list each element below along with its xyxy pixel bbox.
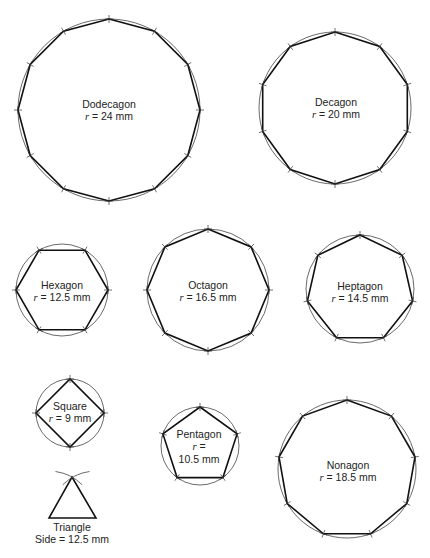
radius-symbol: r bbox=[192, 441, 196, 452]
square-name: Square bbox=[49, 400, 91, 412]
decagon-radius: r = 20 mm bbox=[312, 108, 360, 121]
hexagon-name: Hexagon bbox=[34, 279, 91, 291]
hexagon-radius-value: = 12.5 mm bbox=[41, 291, 91, 303]
triangle-side-value: Side = 12.5 mm bbox=[35, 533, 109, 545]
radius-symbol: r bbox=[320, 472, 324, 483]
radius-symbol: r bbox=[180, 292, 184, 303]
radius-symbol: r bbox=[332, 293, 336, 304]
nonagon-label: Nonagon r = 18.5 mm bbox=[320, 459, 377, 484]
square-label: Square r = 9 mm bbox=[49, 400, 91, 425]
nonagon-radius-value: = 18.5 mm bbox=[327, 471, 377, 483]
pentagon-name: Pentagon bbox=[177, 428, 222, 440]
heptagon-label: Heptagon r = 14.5 mm bbox=[332, 280, 389, 305]
nonagon-name: Nonagon bbox=[320, 459, 377, 471]
pentagon-radius-value: 10.5 mm bbox=[177, 453, 222, 465]
square-radius-value: = 9 mm bbox=[56, 412, 91, 424]
square-radius: r = 9 mm bbox=[49, 412, 91, 425]
decagon-label: Decagon r = 20 mm bbox=[312, 96, 360, 121]
decagon-name: Decagon bbox=[312, 96, 360, 108]
radius-symbol: r bbox=[85, 111, 89, 122]
radius-symbol: r bbox=[34, 292, 38, 303]
pentagon-label: Pentagon r = 10.5 mm bbox=[177, 428, 222, 465]
radius-symbol: r bbox=[312, 109, 316, 120]
hexagon-radius: r = 12.5 mm bbox=[34, 291, 91, 304]
equals-sign: = bbox=[199, 440, 205, 452]
radius-symbol: r bbox=[49, 413, 53, 424]
pentagon-radius: r = bbox=[177, 440, 222, 453]
nonagon-radius: r = 18.5 mm bbox=[320, 471, 377, 484]
dodecagon-name: Dodecagon bbox=[82, 98, 136, 110]
dodecagon-label: Dodecagon r = 24 mm bbox=[82, 98, 136, 123]
triangle-name: Triangle bbox=[35, 521, 109, 533]
triangle-label: Triangle Side = 12.5 mm bbox=[35, 521, 109, 545]
triangle-polygon bbox=[49, 477, 96, 518]
dodecagon-radius-value: = 24 mm bbox=[92, 110, 133, 122]
heptagon-radius-value: = 14.5 mm bbox=[339, 292, 389, 304]
dodecagon-radius: r = 24 mm bbox=[82, 110, 136, 123]
octagon-name: Octagon bbox=[180, 279, 237, 291]
octagon-radius: r = 16.5 mm bbox=[180, 291, 237, 304]
hexagon-label: Hexagon r = 12.5 mm bbox=[34, 279, 91, 304]
decagon-radius-value: = 20 mm bbox=[319, 108, 360, 120]
heptagon-name: Heptagon bbox=[332, 280, 389, 292]
heptagon-radius: r = 14.5 mm bbox=[332, 292, 389, 305]
octagon-label: Octagon r = 16.5 mm bbox=[180, 279, 237, 304]
octagon-radius-value: = 16.5 mm bbox=[187, 291, 237, 303]
